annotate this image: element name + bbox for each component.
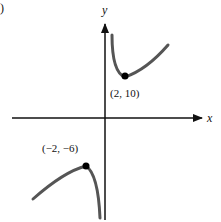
graph-figure: ) x y (2, 10) (−2, −6) bbox=[0, 0, 221, 222]
y-axis-label: y bbox=[101, 3, 108, 17]
local-max-label: (−2, −6) bbox=[42, 142, 79, 155]
local-max-point bbox=[83, 163, 90, 170]
x-axis-label: x bbox=[206, 111, 213, 125]
lower-curve-branch bbox=[33, 166, 100, 218]
upper-curve-branch bbox=[112, 35, 168, 77]
local-min-label: (2, 10) bbox=[110, 87, 140, 100]
panel-label: ) bbox=[0, 1, 4, 15]
local-min-point bbox=[122, 73, 129, 80]
